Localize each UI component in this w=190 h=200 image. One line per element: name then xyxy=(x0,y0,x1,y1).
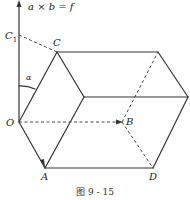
vertex-label-D: D xyxy=(149,172,157,182)
vertex-label-C: C xyxy=(53,38,61,48)
projection-C1C xyxy=(19,35,57,52)
arrowhead-B-icon xyxy=(116,120,123,125)
edge-C-to-front xyxy=(57,52,84,97)
arrowhead-A-icon xyxy=(40,159,45,168)
arrowhead-f-icon xyxy=(17,0,22,7)
edge-right-top xyxy=(158,52,188,97)
edge-OC xyxy=(19,52,57,122)
edge-front-right xyxy=(153,97,188,168)
edge-BD-hidden xyxy=(122,122,153,168)
vertex-label-A: A xyxy=(41,172,48,182)
axis-label: a × b = f xyxy=(28,2,74,12)
figure-caption: 图 9 - 15 xyxy=(0,185,190,198)
edge-front-left xyxy=(45,97,84,168)
vertex-label-C1: C1 xyxy=(5,31,17,44)
parallelepiped-drawing xyxy=(0,0,190,200)
vertex-label-B: B xyxy=(126,117,133,127)
angle-alpha-arc xyxy=(19,86,35,89)
edge-B-top-hidden xyxy=(122,52,158,122)
angle-label-alpha: α xyxy=(26,74,31,82)
parallelepiped-figure: a × b = f C1 C α O B A D 图 9 - 15 xyxy=(0,0,190,200)
vertex-label-O: O xyxy=(6,118,14,128)
